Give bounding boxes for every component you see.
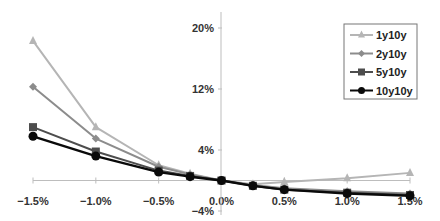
- circle-marker-icon: [91, 152, 100, 161]
- x-tick-label: −0.5%: [143, 195, 175, 207]
- x-tick-label: −1.5%: [17, 195, 49, 207]
- circle-marker-icon: [280, 185, 289, 194]
- legend-label: 1y10y: [376, 29, 407, 41]
- circle-marker-icon: [358, 87, 365, 94]
- circle-marker-icon: [248, 181, 257, 190]
- y-tick-label: 4%: [198, 144, 214, 156]
- y-tick-label: 20%: [192, 22, 214, 34]
- circle-marker-icon: [217, 176, 226, 185]
- square-marker-icon: [358, 69, 365, 76]
- y-tick-label: −4%: [192, 205, 215, 217]
- circle-marker-icon: [406, 191, 415, 200]
- circle-marker-icon: [186, 172, 195, 181]
- square-marker-icon: [29, 123, 37, 131]
- y-tick-label: 12%: [192, 83, 214, 95]
- x-tick-label: −1.0%: [80, 195, 112, 207]
- legend-label: 2y10y: [376, 48, 407, 60]
- x-tick-label: 0.5%: [272, 195, 297, 207]
- triangle-marker-icon: [406, 168, 414, 176]
- circle-marker-icon: [343, 189, 352, 198]
- triangle-marker-icon: [29, 36, 37, 44]
- legend: 1y10y2y10y5y10y10y10y: [344, 24, 417, 99]
- line-chart: −1.5%−1.0%−0.5%0.0%0.5%1.0%1.5%20%12%4%−…: [0, 0, 440, 221]
- circle-marker-icon: [29, 132, 38, 141]
- legend-label: 10y10y: [376, 85, 414, 97]
- legend-label: 5y10y: [376, 66, 407, 78]
- circle-marker-icon: [154, 168, 163, 177]
